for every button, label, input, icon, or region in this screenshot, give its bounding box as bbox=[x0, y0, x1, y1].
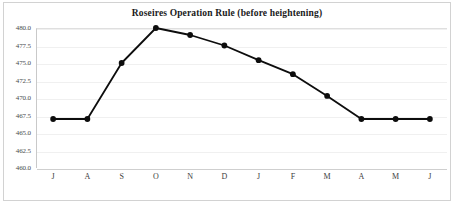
y-tick-label: 475.0 bbox=[16, 59, 31, 67]
y-tick-label: 465.0 bbox=[16, 129, 31, 137]
data-point-marker bbox=[256, 57, 262, 63]
x-tick-label: J bbox=[257, 172, 260, 181]
x-tick-label: J bbox=[52, 172, 55, 181]
series-line bbox=[53, 28, 430, 119]
data-point-marker bbox=[393, 116, 399, 122]
x-tick-label: J bbox=[428, 172, 431, 181]
x-tick-label: M bbox=[392, 172, 399, 181]
y-tick-label: 470.0 bbox=[16, 94, 31, 102]
x-tick-label: S bbox=[119, 172, 123, 181]
chart-title: Roseires Operation Rule (before heighten… bbox=[0, 8, 454, 18]
gridline bbox=[37, 169, 447, 170]
data-point-marker bbox=[324, 93, 330, 99]
data-point-marker bbox=[358, 116, 364, 122]
line-series bbox=[36, 28, 447, 168]
data-point-marker bbox=[119, 60, 125, 66]
x-tick-label: M bbox=[324, 172, 331, 181]
x-tick-label: A bbox=[358, 172, 364, 181]
data-point-marker bbox=[290, 71, 296, 77]
x-axis: JASONDJFMAMJ bbox=[36, 172, 447, 188]
data-point-marker bbox=[427, 116, 433, 122]
x-tick-label: A bbox=[84, 172, 90, 181]
y-tick-label: 477.5 bbox=[16, 42, 31, 50]
x-tick-label: N bbox=[187, 172, 193, 181]
y-tick-label: 467.5 bbox=[16, 112, 31, 120]
data-point-marker bbox=[50, 116, 56, 122]
x-tick-label: O bbox=[153, 172, 159, 181]
y-tick-label: 462.5 bbox=[16, 147, 31, 155]
y-tick-label: 480.0 bbox=[16, 24, 31, 32]
data-point-marker bbox=[221, 43, 227, 49]
data-point-marker bbox=[187, 32, 193, 38]
x-tick-label: D bbox=[221, 172, 227, 181]
y-tick-label: 472.5 bbox=[16, 77, 31, 85]
data-point-marker bbox=[153, 25, 159, 31]
chart-figure: Roseires Operation Rule (before heighten… bbox=[0, 0, 454, 205]
y-axis: 480.0477.5475.0472.5470.0467.5465.0462.5… bbox=[0, 28, 34, 168]
x-tick-label: F bbox=[291, 172, 295, 181]
y-tick-label: 460.0 bbox=[16, 164, 31, 172]
data-point-marker bbox=[84, 116, 90, 122]
